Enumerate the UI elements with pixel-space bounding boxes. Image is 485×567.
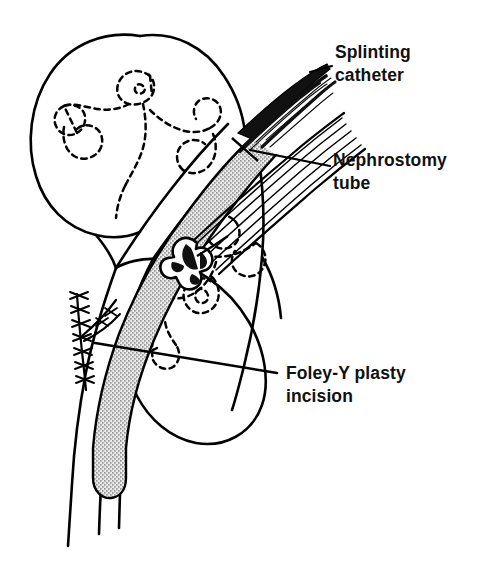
medical-illustration: Splinting catheter Nephrostomy tube Fole… bbox=[0, 0, 485, 567]
label-splinting-catheter: Splinting catheter bbox=[335, 42, 411, 85]
label-foley-y-plasty-line2: incision bbox=[286, 386, 353, 406]
label-nephrostomy-tube-line2: tube bbox=[333, 173, 371, 193]
splinting-catheter-exit bbox=[232, 64, 335, 161]
label-foley-y-plasty-line1: Foley-Y plasty bbox=[286, 363, 406, 383]
label-nephrostomy-tube-line1: Nephrostomy bbox=[333, 150, 447, 170]
label-nephrostomy-tube: Nephrostomy tube bbox=[333, 150, 447, 193]
kidney-outline bbox=[31, 35, 281, 444]
calyceal-system-upper bbox=[55, 71, 221, 218]
anatomy-group bbox=[31, 35, 365, 546]
label-foley-y-plasty-incision: Foley-Y plasty incision bbox=[286, 363, 406, 406]
label-splinting-catheter-line2: catheter bbox=[335, 65, 404, 85]
label-splinting-catheter-line1: Splinting bbox=[335, 42, 411, 62]
